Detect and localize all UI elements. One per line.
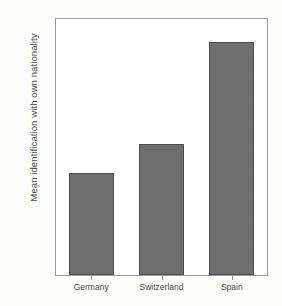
x-axis-tick-mark bbox=[162, 276, 163, 280]
x-axis-tick-mark bbox=[91, 276, 92, 280]
y-axis-title: Mean identification with own nationality bbox=[28, 0, 39, 243]
bar-switzerland bbox=[139, 144, 184, 275]
x-axis-tick-mark bbox=[232, 276, 233, 280]
bar-spain bbox=[209, 42, 254, 275]
bar-germany bbox=[69, 173, 114, 275]
x-axis-label-spain: Spain bbox=[187, 282, 277, 292]
figure-container: Mean identification with own nationality… bbox=[0, 0, 282, 306]
bar-series bbox=[56, 19, 267, 275]
